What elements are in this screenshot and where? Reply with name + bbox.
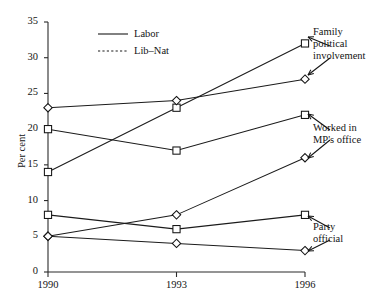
diamond-marker [172,211,180,219]
square-marker [44,168,51,175]
diamond-marker [172,96,180,104]
square-marker [44,211,51,218]
y-tick-label: 20 [18,122,38,133]
series-0 [44,40,308,176]
x-tick-label: 1993 [155,279,199,290]
legend-label-lib-nat: Lib–Nat [134,45,169,56]
y-tick-label: 0 [18,265,38,276]
square-marker [301,211,308,218]
y-tick-label: 30 [18,51,38,62]
series-5 [44,232,309,255]
legend-marks [98,34,128,51]
annotation-worked-in-mp-office: Worked in MP's office [313,122,361,146]
y-tick-label: 35 [18,15,38,26]
series-line [48,115,305,151]
diamond-marker [44,232,52,240]
series-layer [44,40,309,255]
y-tick-label: 5 [18,229,38,240]
square-marker [301,111,308,118]
square-marker [173,226,180,233]
y-tick-label: 25 [18,86,38,97]
square-marker [173,147,180,154]
annotation-party-official: Party official [313,221,343,245]
y-tick-label: 15 [18,158,38,169]
square-marker [44,126,51,133]
chart-figure: can decrease Per cent 05101520253035 199… [0,0,388,302]
y-tick-label: 10 [18,194,38,205]
series-line [48,158,305,237]
x-tick-marks [48,272,305,277]
series-2 [44,111,308,154]
diamond-marker [301,75,309,83]
diamond-marker [172,239,180,247]
square-marker [301,40,308,47]
diamond-marker [44,104,52,112]
x-tick-label: 1996 [283,279,327,290]
annotation-family-political-involvement: Family political involvement [313,26,366,63]
x-tick-label: 1990 [26,279,70,290]
legend-label-labor: Labor [134,28,159,39]
